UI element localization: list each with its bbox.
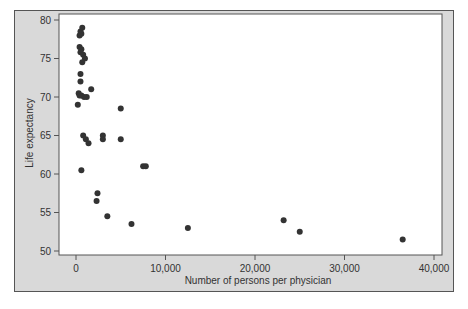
x-tick-label: 20,000 [240,263,271,274]
y-tick-label: 60 [40,169,52,180]
y-tick-label: 70 [40,92,52,103]
data-point [94,198,100,204]
data-point [128,221,134,227]
data-point [143,163,149,169]
plot-area [59,14,442,255]
scatter-chart: 50556065707580 010,00020,00030,00040,000… [0,0,468,309]
data-point [77,92,83,98]
data-point [86,140,92,146]
data-point [88,86,94,92]
data-point [100,136,106,142]
x-tick-label: 0 [73,263,79,274]
x-axis: 010,00020,00030,00040,000 [73,255,450,274]
y-axis-title: Life expectancy [24,98,35,168]
data-point [77,71,83,77]
y-axis: 50556065707580 [40,15,59,257]
data-point [78,167,84,173]
y-tick-label: 55 [40,207,52,218]
data-point [297,229,303,235]
data-point [118,106,124,112]
y-tick-label: 50 [40,246,52,257]
y-tick-label: 75 [40,53,52,64]
data-point [78,31,84,37]
data-point [77,79,83,85]
x-tick-label: 40,000 [419,263,450,274]
data-point [281,217,287,223]
y-tick-label: 65 [40,130,52,141]
x-axis-title: Number of persons per physician [185,275,332,286]
x-tick-label: 30,000 [329,263,360,274]
data-point [185,225,191,231]
data-point [75,102,81,108]
data-point [79,25,85,31]
data-point [94,190,100,196]
data-point [400,236,406,242]
x-tick-label: 10,000 [150,263,181,274]
data-point [79,59,85,65]
y-tick-label: 80 [40,15,52,26]
data-point [84,94,90,100]
data-point [118,136,124,142]
data-point [104,213,110,219]
